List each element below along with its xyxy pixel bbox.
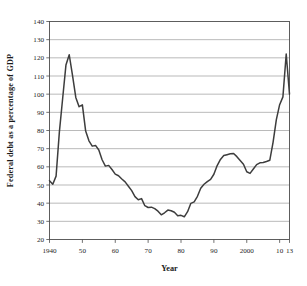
x-axis-ticks-group: 1940506070809020001013: [42, 240, 293, 256]
chart-figure: Federal debt as a percentage of GDP 2030…: [0, 0, 307, 286]
y-tick-label: 130: [33, 36, 44, 44]
x-tick-label: 80: [177, 247, 185, 255]
y-tick-label: 100: [33, 91, 44, 99]
y-tick-label: 140: [33, 18, 44, 26]
x-tick-label: 50: [79, 247, 87, 255]
y-tick-label: 80: [37, 127, 45, 135]
x-tick-label: 10: [276, 247, 284, 255]
y-tick-label: 90: [37, 109, 45, 117]
x-tick-label: 1940: [42, 247, 57, 255]
y-tick-label: 30: [37, 218, 45, 226]
x-tick-label: 13: [286, 247, 294, 255]
plot-area: 2030405060708090100110120130140 19405060…: [0, 0, 307, 286]
x-tick-label: 2000: [240, 247, 255, 255]
data-series-group: [50, 54, 290, 217]
x-tick-label: 70: [145, 247, 153, 255]
y-tick-label: 20: [37, 236, 45, 244]
y-tick-label: 120: [33, 54, 44, 62]
x-tick-label: 90: [210, 247, 218, 255]
line-chart-svg: 2030405060708090100110120130140 19405060…: [0, 0, 307, 286]
x-tick-label: 60: [112, 247, 120, 255]
y-tick-label: 70: [37, 145, 45, 153]
y-tick-label: 50: [37, 182, 45, 190]
y-axis-ticks-group: 2030405060708090100110120130140: [33, 18, 49, 244]
data-series-line: [50, 54, 290, 217]
y-tick-label: 60: [37, 163, 45, 171]
y-tick-label: 110: [34, 73, 45, 81]
x-axis-label: Year: [49, 264, 290, 273]
y-tick-label: 40: [37, 200, 45, 208]
